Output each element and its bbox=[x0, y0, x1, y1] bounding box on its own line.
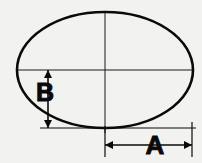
dimension-label-a: A bbox=[146, 130, 165, 160]
a-arrowhead-left bbox=[105, 141, 113, 149]
figure-canvas: B A bbox=[0, 0, 202, 163]
b-arrowhead-top bbox=[44, 70, 52, 78]
b-arrowhead-bottom bbox=[44, 120, 52, 128]
ellipse-dimension-drawing: B A bbox=[0, 0, 202, 163]
a-arrowhead-right bbox=[184, 141, 192, 149]
dimension-label-b: B bbox=[36, 78, 54, 106]
